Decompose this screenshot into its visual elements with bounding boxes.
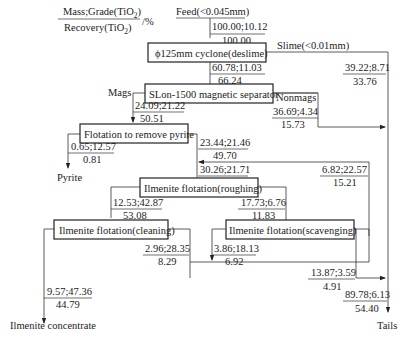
legend-unit: /% [142, 16, 154, 27]
scav-tails-bottom: 4.91 [323, 281, 341, 292]
pyrite-flotation-label: Flotation to remove pyrite [84, 129, 194, 140]
scav-conc-top: 6.82;22.57 [322, 164, 367, 175]
slime-top: 39.22;8.71 [345, 62, 390, 73]
rougher-conc-bottom: 53.08 [123, 210, 147, 221]
pyrite-top: 0.65;12.57 [71, 141, 116, 152]
underflow-top: 60.78;11.03 [212, 62, 262, 73]
cleaner-tails-bottom: 8.29 [158, 256, 176, 267]
cleaner-tails-top: 2.96;28.35 [145, 243, 190, 254]
scav-middlings-top: 3.86;18.13 [214, 243, 259, 254]
rougher-feed-top: 30.26;21.71 [200, 164, 250, 175]
pyrite-label: Pyrite [57, 172, 82, 183]
cyclone-label: ϕ125mm cyclone(deslime) [155, 48, 268, 60]
cleaner-label: Ilmenite flotation(cleaning) [59, 225, 175, 237]
concentrate-top: 9.57;47.36 [47, 286, 92, 297]
concentrate-bottom: 44.79 [56, 299, 80, 310]
rougher-label: Ilmenite flotation(roughing) [144, 183, 263, 195]
slime-label: Slime(<0.01mm) [277, 40, 350, 52]
rougher-tails-top: 17.73;6.76 [241, 197, 286, 208]
feed-label: Feed(<0.045mm) [176, 6, 250, 18]
mags-label: Mags [108, 87, 131, 98]
pyrite-tails-bottom: 49.70 [213, 150, 237, 161]
mags-bottom: 50.51 [140, 113, 164, 124]
legend-numerator: Mass;Grade(TiO2) [63, 6, 142, 20]
concentrate-line [44, 229, 54, 323]
tails-label: Tails [377, 320, 397, 331]
tails-top: 89.78;6.13 [345, 289, 390, 300]
scav-conc-bottom: 15.21 [333, 177, 357, 188]
concentrate-label: Ilmenite concentrate [10, 320, 96, 331]
scavenger-label: Ilmenite flotation(scavenging) [229, 225, 357, 237]
rougher-conc-top: 12.53;42.87 [113, 197, 163, 208]
scav-middlings-bottom: 6.92 [225, 256, 243, 267]
flowsheet: Mass;Grade(TiO2) Recovery(TiO2) /% Feed(… [0, 0, 408, 341]
nonmags-label: Nonmags [276, 92, 316, 103]
return-loop [357, 236, 369, 262]
legend: Mass;Grade(TiO2) Recovery(TiO2) /% [58, 6, 154, 36]
rougher-tails-bottom: 11.83 [252, 210, 275, 221]
mags-top: 24.09;21.22 [135, 100, 185, 111]
nonmags-top: 36.69;4.34 [273, 106, 319, 117]
slime-bottom: 33.76 [353, 76, 377, 87]
feed-top: 100.00;10.12 [212, 21, 267, 32]
scav-tails-line [354, 229, 385, 278]
pyrite-tails-line [188, 134, 197, 178]
scav-tails-top: 13.87;3.59 [311, 267, 356, 278]
pyrite-tails-top: 23.44;21.46 [200, 137, 250, 148]
nonmags-bottom: 15.73 [281, 119, 305, 130]
tails-bottom: 54.40 [355, 303, 379, 314]
magnetic-separator-label: SLon-1500 magnetic separator [149, 89, 279, 100]
pyrite-bottom: 0.81 [83, 154, 101, 165]
legend-denominator: Recovery(TiO2) [64, 22, 132, 36]
